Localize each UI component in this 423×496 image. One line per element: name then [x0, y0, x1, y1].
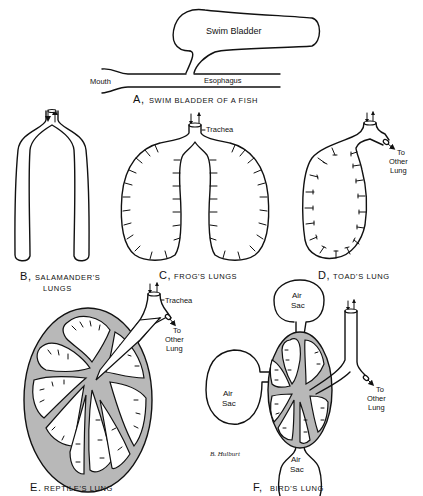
- caption-e: REPTILE'S LUNG: [44, 484, 113, 493]
- caption-d-letter: D,: [318, 269, 330, 281]
- label-to-e: To: [173, 326, 181, 335]
- label-swim-bladder: Swim Bladder: [206, 26, 262, 36]
- esophagus-top-wall: [102, 69, 186, 74]
- swim-bladder-shape: [173, 10, 319, 73]
- caption-e-letter: E.: [30, 481, 42, 493]
- label-other-e: Other: [165, 335, 184, 344]
- label-esophagus: Esophagus: [204, 76, 242, 85]
- toad-septa: [305, 148, 366, 258]
- frog-lung-outline: [121, 125, 268, 260]
- label-sac-left: Sac: [222, 399, 236, 408]
- label-to-d: To: [397, 148, 405, 157]
- panel-f-bird-lung: Air Sac Air Sac Air Sac To Other Lung B.…: [206, 280, 386, 496]
- label-air-bottom: Air: [291, 455, 301, 464]
- label-sac-top: Sac: [291, 301, 305, 310]
- label-lung-e: Lung: [166, 344, 183, 353]
- air-sac-left: [206, 350, 274, 424]
- caption-f-letter: F,: [253, 481, 263, 493]
- caption-c-letter: C,: [159, 269, 171, 281]
- frog-septa: [123, 145, 267, 259]
- label-trachea-frog: Trachea: [206, 125, 234, 134]
- caption-b-line1: SALAMANDER'S: [35, 273, 100, 282]
- caption-b-letter: B,: [20, 270, 32, 282]
- label-air-top: Air: [292, 291, 302, 300]
- label-lung-d: Lung: [390, 166, 407, 175]
- esophagus-bottom-wall: [102, 87, 280, 93]
- caption-d: TOAD'S LUNG: [333, 272, 390, 281]
- label-lung-f: Lung: [368, 403, 385, 412]
- label-mouth: Mouth: [90, 77, 111, 86]
- comparative-lungs-diagram: Swim Bladder Mouth Esophagus A, SWIM BLA…: [0, 0, 423, 496]
- caption-a: SWIM BLADDER OF A FISH: [149, 96, 258, 105]
- caption-a-letter: A,: [133, 93, 145, 105]
- label-other-d: Other: [389, 157, 408, 166]
- salamander-lung-outline: [15, 111, 89, 261]
- artist-signature: B. Hulburt: [210, 450, 241, 458]
- panel-c-frog-lungs: Trachea C, FROG'S LUNGS: [121, 112, 268, 281]
- panel-a-swim-bladder: Swim Bladder Mouth Esophagus A, SWIM BLA…: [90, 10, 320, 105]
- label-to-f: To: [376, 385, 384, 394]
- label-air-left: Air: [223, 389, 233, 398]
- caption-c: FROG'S LUNGS: [174, 272, 237, 281]
- label-trachea-reptile: Trachea: [165, 296, 193, 305]
- caption-f: BIRD'S LUNG: [270, 484, 324, 493]
- label-sac-bottom: Sac: [290, 465, 304, 474]
- label-other-f: Other: [367, 394, 386, 403]
- panel-e-reptile-lung: Trachea To Other Lung E. REPTILE'S LUNG: [24, 282, 193, 493]
- panel-d-toad-lung: To Other Lung D, TOAD'S LUNG: [303, 111, 409, 281]
- panel-b-salamander-lungs: B, SALAMANDER'S LUNGS: [15, 110, 100, 294]
- caption-b-line2: LUNGS: [43, 284, 72, 293]
